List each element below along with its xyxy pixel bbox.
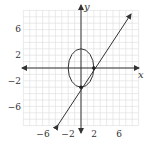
x-tick-label: −6 <box>36 129 50 139</box>
intersection-point <box>92 66 96 70</box>
x-tick-label: 2 <box>91 129 97 139</box>
x-tick-label: 6 <box>116 129 122 139</box>
intersection-point <box>79 85 83 89</box>
y-tick-label: 2 <box>15 50 21 60</box>
coordinate-plane: y x −6 −2 2 6 6 2 −2 −6 <box>0 0 146 142</box>
y-tick-label: −2 <box>8 76 21 86</box>
x-tick-label: −2 <box>61 129 74 139</box>
y-tick-label: 6 <box>15 24 21 34</box>
x-axis-label: x <box>138 69 144 80</box>
y-tick-label: −6 <box>8 102 22 112</box>
y-axis-label: y <box>83 1 90 12</box>
